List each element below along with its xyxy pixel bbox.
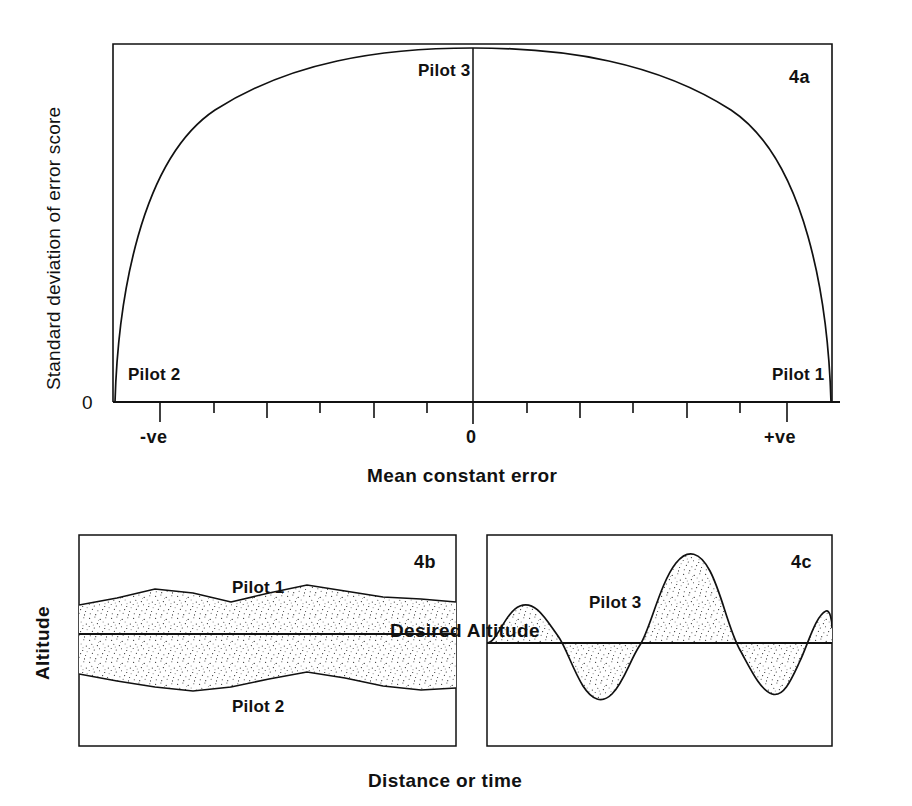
figure-canvas	[0, 0, 912, 806]
panel-4a-label-pilot-2: Pilot 2	[128, 366, 180, 383]
panel-4b-tag: 4b	[414, 553, 436, 571]
panel-4b-label-pilot-1: Pilot 1	[232, 579, 284, 596]
panel-4b-label-pilot-2: Pilot 2	[232, 698, 284, 715]
panel-4b-pilot2-error-band	[79, 634, 456, 691]
panel-4a-origin-label: 0	[82, 393, 93, 412]
panel-4a-plot	[113, 44, 840, 424]
panel-4a-x-axis-title: Mean constant error	[367, 466, 557, 485]
bottom-panels-y-axis-title: Altitude	[33, 606, 52, 680]
panel-4a-xtick-zero: 0	[466, 428, 477, 446]
panel-4a-tag: 4a	[789, 68, 810, 86]
panel-4a-x-ticks	[160, 402, 787, 424]
bottom-panels-x-axis-title: Distance or time	[368, 771, 522, 790]
panel-4a-y-axis-title: Standard deviation of error score	[44, 107, 63, 390]
panel-4a-label-pilot-1: Pilot 1	[772, 366, 824, 383]
panel-4c-label-pilot-3: Pilot 3	[589, 594, 641, 611]
panel-4a-label-pilot-3: Pilot 3	[418, 62, 470, 79]
panel-4c-tag: 4c	[791, 553, 812, 571]
panel-4a-xtick-negative: -ve	[140, 428, 168, 446]
desired-altitude-label: Desired Altitude	[390, 621, 540, 640]
panel-4a-xtick-positive: +ve	[764, 428, 796, 446]
figure-root: Standard deviation of error score 0 4a P…	[0, 0, 912, 806]
